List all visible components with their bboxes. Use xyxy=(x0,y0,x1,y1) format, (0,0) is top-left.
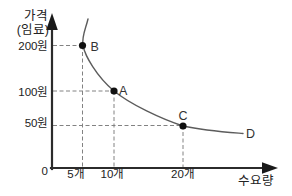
x-axis-arrow-icon xyxy=(262,162,278,174)
point-b-dot xyxy=(79,42,86,49)
demand-curve-chart: 가격 (임료) 200원 100원 50원 0 5개 10개 20개 수요량 B… xyxy=(0,0,292,196)
point-a-label: A xyxy=(119,84,128,98)
x-axis-title: 수요량 xyxy=(238,174,274,188)
point-b-label: B xyxy=(91,40,99,54)
demand-curve xyxy=(83,19,243,134)
y-axis-title-line1: 가격 xyxy=(24,9,48,23)
origin-label: 0 xyxy=(42,165,48,177)
y-tick-50: 50원 xyxy=(25,116,49,129)
x-tick-10: 10개 xyxy=(101,168,125,180)
x-tick-20: 20개 xyxy=(171,168,195,180)
point-a-dot xyxy=(110,87,117,94)
point-c-dot xyxy=(179,122,186,129)
point-c-label: C xyxy=(179,109,188,123)
curve-d-label: D xyxy=(246,127,255,141)
y-axis-title-line2: (임료) xyxy=(17,23,49,37)
y-tick-100: 100원 xyxy=(18,85,48,98)
chart-canvas: 가격 (임료) 200원 100원 50원 0 5개 10개 20개 수요량 B… xyxy=(0,0,292,196)
x-tick-5: 5개 xyxy=(67,168,84,180)
y-tick-200: 200원 xyxy=(18,39,48,52)
